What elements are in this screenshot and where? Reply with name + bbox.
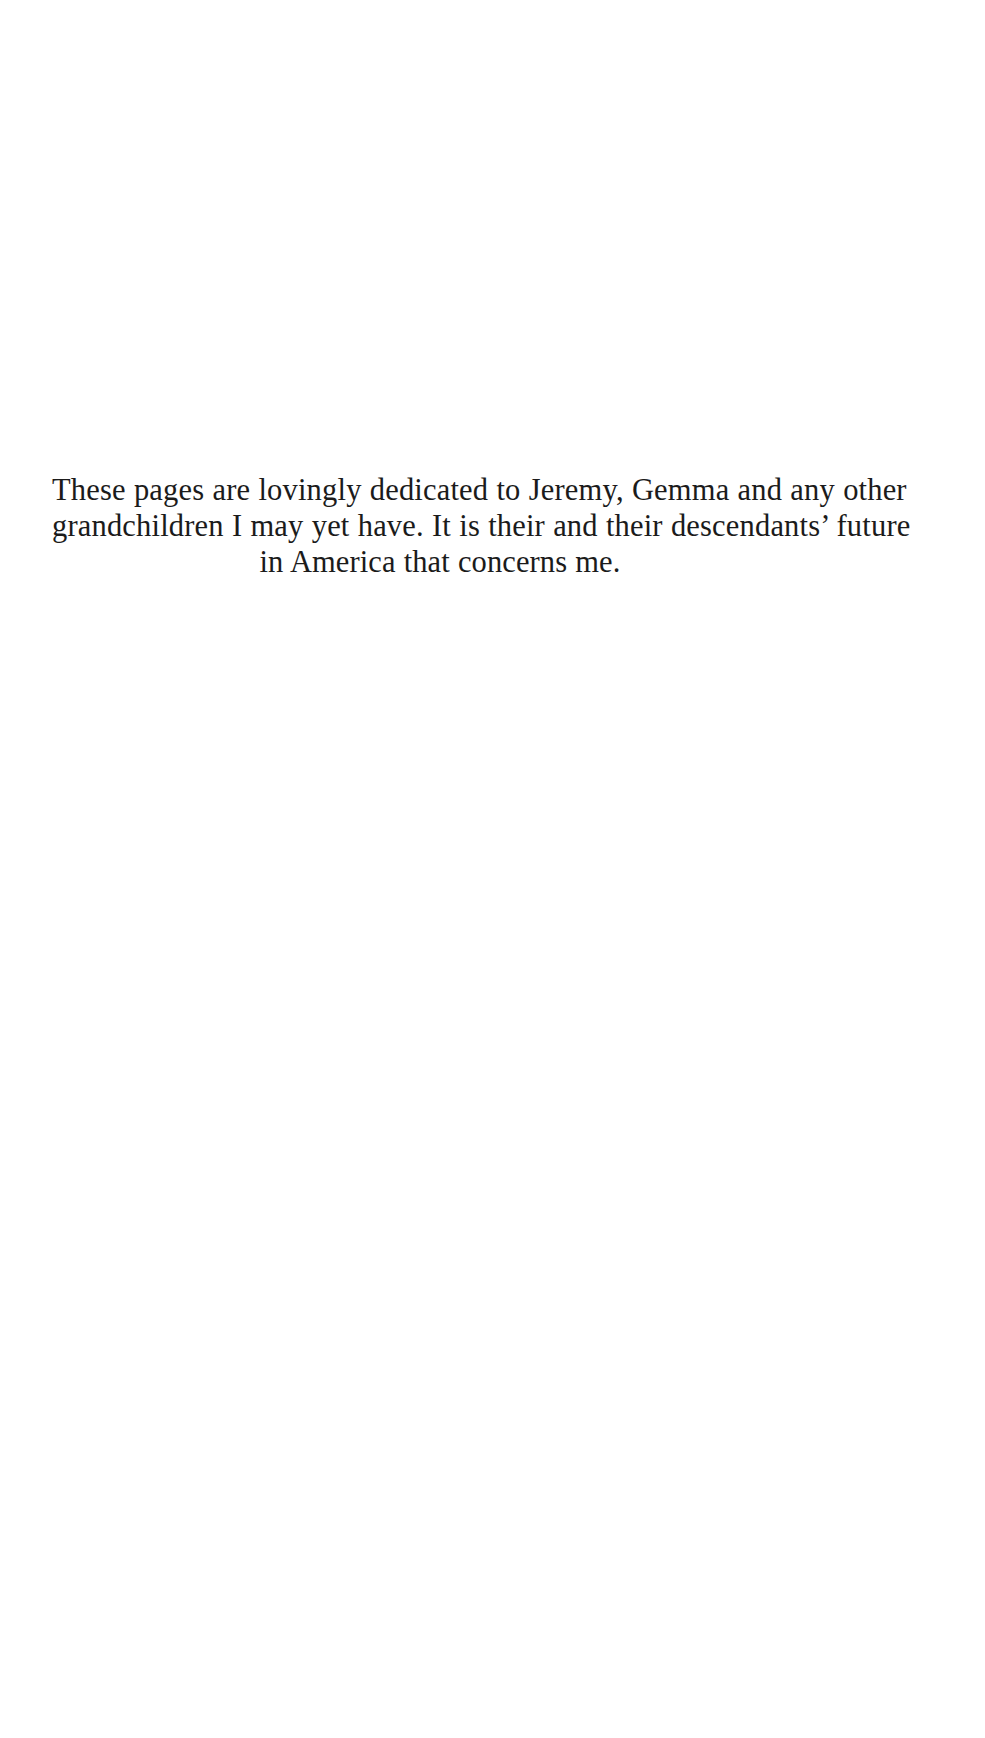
dedication-text-block: These pages are lovingly dedicated to Je… xyxy=(52,472,828,580)
page-top-whitespace xyxy=(0,0,985,472)
dedication-line-3: in America that concerns me. xyxy=(52,544,828,580)
dedication-line-1: These pages are lovingly dedicated to Je… xyxy=(52,472,828,508)
page-bottom-whitespace xyxy=(0,600,985,1738)
dedication-line-2: grandchildren I may yet have. It is thei… xyxy=(52,508,828,544)
dedication-page: These pages are lovingly dedicated to Je… xyxy=(0,0,985,1738)
